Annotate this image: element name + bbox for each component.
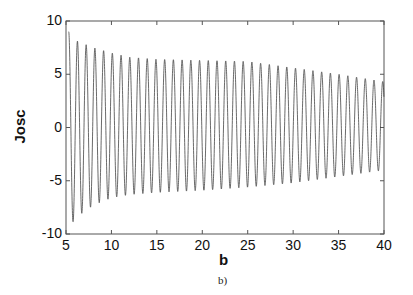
- y-axis-title: Josc: [11, 109, 28, 143]
- data-line-josc: [69, 32, 384, 222]
- figure-caption: b): [218, 274, 227, 286]
- axis-ticks: [66, 21, 384, 234]
- y-tick-label: 0: [32, 120, 62, 134]
- x-axis-title: b: [219, 251, 228, 268]
- x-tick-label: 5: [51, 238, 81, 252]
- y-tick-label: 5: [32, 66, 62, 80]
- x-tick-label: 20: [187, 238, 217, 252]
- x-tick-label: 25: [233, 238, 263, 252]
- x-tick-label: 30: [278, 238, 308, 252]
- y-tick-label: -5: [32, 173, 62, 187]
- y-tick-label: 10: [32, 13, 62, 27]
- x-tick-label: 10: [96, 238, 126, 252]
- x-tick-label: 40: [369, 238, 399, 252]
- x-tick-label: 35: [324, 238, 354, 252]
- x-tick-label: 15: [142, 238, 172, 252]
- axes-frame: [66, 21, 384, 234]
